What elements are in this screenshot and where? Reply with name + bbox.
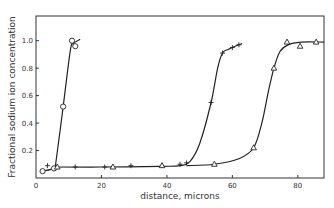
point-circle xyxy=(40,169,45,174)
point-circle xyxy=(69,38,74,43)
point-plus xyxy=(102,165,107,170)
point-plus xyxy=(230,45,235,50)
x-tick-label: 80 xyxy=(293,182,302,190)
point-triangle xyxy=(297,43,303,48)
y-tick-label: 0.2 xyxy=(22,147,33,155)
x-axis-title: distance, microns xyxy=(140,191,220,201)
x-tick-label: 60 xyxy=(228,182,237,190)
point-triangle xyxy=(159,163,165,168)
point-plus xyxy=(73,165,78,170)
y-tick-label: 0.8 xyxy=(22,65,33,73)
y-tick-label: 0.6 xyxy=(22,92,34,100)
point-triangle xyxy=(284,39,290,44)
series-curves xyxy=(43,39,324,171)
point-plus xyxy=(45,163,50,168)
x-tick-label: 0 xyxy=(34,182,38,190)
x-tick-label: 20 xyxy=(97,182,106,190)
point-triangle xyxy=(251,145,257,150)
point-plus xyxy=(128,163,133,168)
chart: 020406080 0.20.40.60.81.0 distance, micr… xyxy=(0,0,334,208)
curve-crosses xyxy=(56,43,243,167)
y-tick-label: 1.0 xyxy=(22,37,33,45)
y-axis-title: Fractional sodium ion concentration xyxy=(7,16,17,177)
x-axis: 020406080 xyxy=(34,175,303,190)
x-tick-label: 40 xyxy=(162,182,171,190)
y-tick-label: 0.4 xyxy=(22,120,34,128)
point-plus xyxy=(236,42,241,47)
point-circle xyxy=(61,104,66,109)
point-circle xyxy=(73,44,78,49)
point-plus xyxy=(209,100,214,105)
point-triangle xyxy=(271,65,277,70)
